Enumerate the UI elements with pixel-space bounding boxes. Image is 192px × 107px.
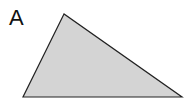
triangle-canvas — [0, 0, 192, 107]
figure-label: A — [9, 6, 24, 30]
triangle-shape — [23, 14, 182, 97]
triangle-figure: A — [0, 0, 192, 107]
